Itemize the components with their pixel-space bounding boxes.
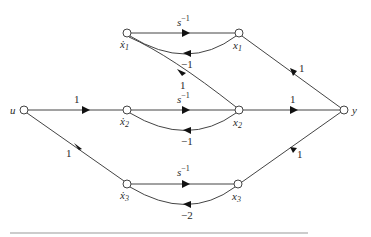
node-x3 bbox=[234, 180, 242, 188]
arrow-icon bbox=[183, 50, 191, 57]
gain-u-x3dot: 1 bbox=[66, 147, 72, 159]
node-x2dot bbox=[123, 106, 131, 114]
gain-x1-x1dot: −1 bbox=[181, 58, 193, 70]
label-x2dot: ẋ2 bbox=[119, 115, 129, 129]
label-x3dot: ẋ3 bbox=[119, 189, 129, 203]
arrow-icon bbox=[82, 106, 90, 114]
label-x1: x1 bbox=[232, 39, 242, 53]
label-x1dot: ẋ1 bbox=[119, 38, 129, 52]
arrow-icon bbox=[290, 147, 297, 153]
label-u: u bbox=[10, 104, 16, 116]
gain-x3-x3dot: −2 bbox=[181, 209, 193, 221]
label-x3: x3 bbox=[231, 190, 241, 204]
gain-x2-y: 1 bbox=[290, 93, 296, 105]
node-x1 bbox=[235, 29, 243, 37]
signal-flow-graph: u y ẋ1 x1 ẋ2 x2 ẋ3 x3 1 1 s−1 −1 1 s−1 −… bbox=[0, 0, 371, 237]
edge-x3-to-y bbox=[242, 112, 341, 182]
gain-x2dot-x2: s−1 bbox=[177, 91, 190, 105]
edge-x3-to-x3dot bbox=[130, 187, 235, 205]
node-x3dot bbox=[123, 180, 131, 188]
node-x1dot bbox=[123, 29, 131, 37]
arrow-icon bbox=[183, 127, 191, 134]
gain-x3dot-x3: s−1 bbox=[177, 164, 190, 178]
gain-x2-x2dot: −1 bbox=[181, 135, 193, 147]
label-y: y bbox=[351, 104, 357, 116]
gain-x1-y: 1 bbox=[299, 62, 305, 74]
gain-u-x2dot: 1 bbox=[74, 93, 80, 105]
node-x2 bbox=[235, 106, 243, 114]
gain-x3-y: 1 bbox=[297, 148, 303, 160]
node-y bbox=[340, 106, 348, 114]
edge-u-to-x3dot bbox=[27, 113, 124, 181]
label-x2: x2 bbox=[232, 116, 242, 130]
arrow-icon bbox=[182, 180, 190, 188]
arrow-icon bbox=[182, 29, 190, 37]
node-u bbox=[20, 106, 28, 114]
arrow-icon bbox=[177, 69, 186, 76]
arrow-icon bbox=[290, 106, 298, 114]
edge-x2-to-x2dot bbox=[130, 113, 236, 131]
arrow-icon bbox=[182, 106, 190, 114]
gain-x2-x1dot: 1 bbox=[180, 79, 186, 91]
arrow-icon bbox=[183, 201, 191, 208]
gain-x1dot-x1: s−1 bbox=[177, 14, 190, 28]
